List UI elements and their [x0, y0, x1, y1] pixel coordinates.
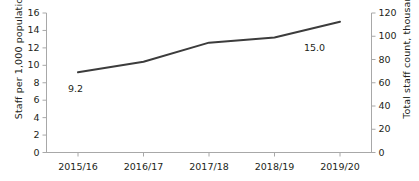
- y-axis-secondary-tick-label: 20: [379, 123, 403, 134]
- y-axis-primary-tick-label: 14: [20, 24, 40, 35]
- y-axis-secondary-tick-label: 120: [379, 7, 403, 18]
- x-axis-tick-label: 2017/18: [178, 161, 240, 172]
- y-axis-primary-tick-label: 4: [20, 112, 40, 123]
- y-axis-secondary-tick-label: 100: [379, 30, 403, 41]
- y-axis-primary-tick-label: 2: [20, 129, 40, 140]
- data-point-label: 9.2: [68, 83, 83, 94]
- y-axis-secondary-tick-label: 0: [379, 147, 403, 158]
- y-axis-primary-tick-label: 8: [20, 77, 40, 88]
- y-axis-primary-tick-label: 10: [20, 59, 40, 70]
- y-axis-primary-tick-label: 16: [20, 7, 40, 18]
- data-point-label: 15.0: [304, 42, 325, 53]
- y-axis-primary-tick-label: 6: [20, 94, 40, 105]
- y-axis-secondary-tick-label: 40: [379, 100, 403, 111]
- plot-area: [0, 0, 419, 181]
- y-axis-primary-tick-label: 12: [20, 42, 40, 53]
- x-axis-tick-label: 2015/16: [47, 161, 109, 172]
- y-axis-primary-tick-label: 0: [20, 147, 40, 158]
- x-axis-tick-label: 2019/20: [309, 161, 371, 172]
- y-axis-secondary-tick-label: 80: [379, 54, 403, 65]
- x-axis-tick-label: 2016/17: [113, 161, 175, 172]
- x-axis-tick-label: 2018/19: [244, 161, 306, 172]
- line-chart: Staff per 1,000 population Total staff c…: [0, 0, 419, 181]
- y-axis-secondary-tick-label: 60: [379, 77, 403, 88]
